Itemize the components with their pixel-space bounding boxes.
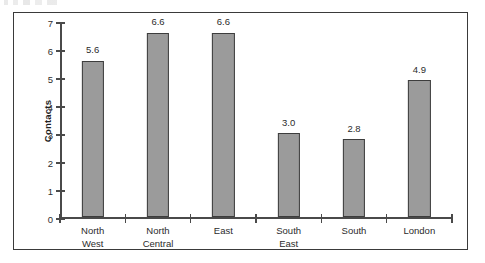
x-category-label: NorthCentral <box>143 225 174 250</box>
scan-artifact <box>4 0 66 5</box>
y-tick-label: 7 <box>48 18 53 28</box>
bar-value-label: 6.6 <box>217 17 230 27</box>
x-category-label: SouthEast <box>276 225 301 250</box>
x-category-label-line: North <box>81 225 104 236</box>
bar[interactable] <box>343 139 365 217</box>
x-category-label: London <box>403 225 435 238</box>
y-tick-label: 1 <box>48 186 53 196</box>
bar[interactable] <box>82 61 104 218</box>
y-tick-label: 3 <box>48 130 53 140</box>
bar-value-label: 2.8 <box>347 124 360 134</box>
x-category-label-line: West <box>82 238 103 249</box>
y-tick-label: 4 <box>48 102 53 112</box>
bar-value-label: 5.6 <box>86 45 99 55</box>
bar-slot: 6.6East <box>191 21 256 217</box>
bar-slot: 2.8South <box>321 21 386 217</box>
y-tick-label: 0 <box>48 214 53 224</box>
bar[interactable] <box>147 33 169 218</box>
y-tick-label: 5 <box>48 74 53 84</box>
bar-slot: 4.9London <box>387 21 452 217</box>
x-category-label-line: East <box>214 225 233 236</box>
x-category-label-line: London <box>403 225 435 236</box>
x-category-label: NorthWest <box>81 225 104 250</box>
bar-value-label: 6.6 <box>151 17 164 27</box>
bar-value-label: 4.9 <box>413 65 426 75</box>
x-category-label-line: Central <box>143 238 174 249</box>
x-category-label: East <box>214 225 233 238</box>
bar[interactable] <box>212 33 234 218</box>
x-category-label-line: East <box>279 238 298 249</box>
bar-slot: 3.0SouthEast <box>256 21 321 217</box>
bar-value-label: 3.0 <box>282 118 295 128</box>
plot-area: Contacts 01234567 5.6NorthWest6.6NorthCe… <box>60 23 452 219</box>
x-category-label-line: South <box>276 225 301 236</box>
bar[interactable] <box>408 80 430 217</box>
x-category-label: South <box>342 225 367 238</box>
bar-slot: 6.6NorthCentral <box>125 21 190 217</box>
x-category-label-line: South <box>342 225 367 236</box>
bar-slot: 5.6NorthWest <box>60 21 125 217</box>
y-tick-label: 2 <box>48 158 53 168</box>
y-tick-label: 6 <box>48 46 53 56</box>
chart-figure-frame: Contacts 01234567 5.6NorthWest6.6NorthCe… <box>13 12 468 250</box>
bar[interactable] <box>278 133 300 217</box>
x-category-label-line: North <box>146 225 169 236</box>
